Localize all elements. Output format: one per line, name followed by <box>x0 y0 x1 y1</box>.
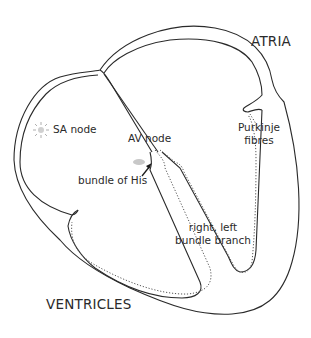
label-purkinje-fibres: Purkinje fibres <box>234 121 284 147</box>
label-bundle-branch: right, left bundle branch <box>175 221 251 247</box>
label-bundle-branch-line1: right, left <box>175 221 251 234</box>
av-node-marker <box>133 159 145 165</box>
label-av-node: AV node <box>128 132 171 144</box>
label-purkinje-line1: Purkinje <box>234 121 284 134</box>
heart-diagram <box>0 0 311 338</box>
atrium-left-inner-wall <box>20 75 98 215</box>
label-bundle-branch-line2: bundle branch <box>175 234 251 247</box>
label-ventricles: VENTRICLES <box>46 296 132 312</box>
sa-node-marker <box>33 122 49 138</box>
label-purkinje-line2: fibres <box>234 134 284 147</box>
atrial-septum-inner <box>104 39 262 112</box>
label-sa-node: SA node <box>53 123 97 135</box>
label-atria: ATRIA <box>251 33 291 49</box>
label-bundle-of-his: bundle of His <box>78 174 147 186</box>
